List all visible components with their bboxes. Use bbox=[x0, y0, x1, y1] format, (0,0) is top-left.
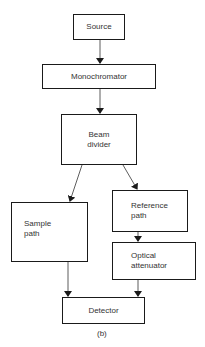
monochromator-box: Monochromator bbox=[42, 64, 156, 89]
detector-label: Detector bbox=[88, 306, 118, 316]
connector-arrows bbox=[0, 0, 205, 347]
source-label: Source bbox=[86, 22, 111, 32]
arrow-beam-divider-reference-path bbox=[123, 165, 137, 189]
monochromator-label: Monochromator bbox=[71, 72, 127, 82]
beam-divider-line1: Beam bbox=[87, 130, 111, 140]
reference-path-box: Reference path bbox=[112, 190, 188, 232]
source-box: Source bbox=[73, 14, 125, 40]
reference-path-line1: Reference bbox=[131, 201, 168, 211]
optical-attenuator-line2: attenuator bbox=[131, 261, 167, 271]
optical-attenuator-line1: Optical bbox=[131, 251, 167, 261]
beam-divider-line2: divider bbox=[87, 140, 111, 150]
detector-box: Detector bbox=[62, 297, 145, 324]
sample-path-line1: Sample bbox=[24, 219, 51, 229]
figure-caption: (b) bbox=[97, 329, 107, 338]
beam-divider-box: Beam divider bbox=[61, 114, 137, 165]
optical-attenuator-box: Optical attenuator bbox=[112, 242, 196, 280]
sample-path-box: Sample path bbox=[11, 202, 88, 262]
arrow-beam-divider-sample-path bbox=[70, 165, 82, 201]
reference-path-line2: path bbox=[131, 211, 168, 221]
sample-path-line2: path bbox=[24, 229, 51, 239]
